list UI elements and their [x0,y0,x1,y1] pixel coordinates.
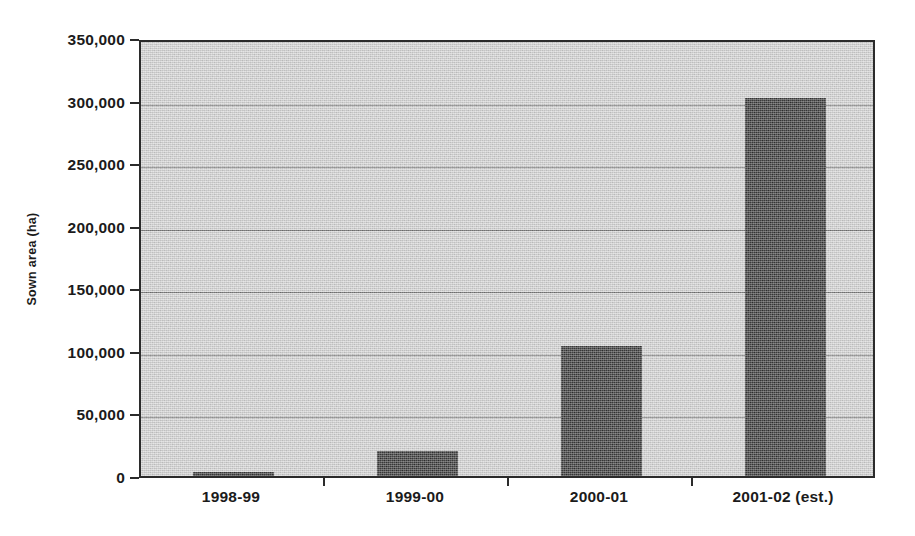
y-axis-tick-label: 300,000 [68,94,125,112]
x-axis-tick-label: 1999-00 [386,488,444,506]
y-axis-tick-mark [130,289,139,291]
y-axis-tick-label: 0 [116,469,125,487]
y-axis-tick-labels: 050,000100,000150,000200,000250,000300,0… [0,0,125,536]
bar [193,472,274,476]
y-axis-tick-mark [130,39,139,41]
y-axis-tick-label: 150,000 [68,281,125,299]
x-axis-tick-mark [323,478,325,486]
plot-area [139,40,875,478]
x-axis-tick-label: 2001-02 (est.) [732,488,833,506]
x-axis-tick-label: 1998-99 [202,488,260,506]
y-axis-tick-label: 250,000 [68,156,125,174]
y-axis-tick-label: 200,000 [68,219,125,237]
y-axis-tick-mark [130,352,139,354]
x-axis-tick-mark [691,478,693,486]
x-axis-tick-mark [507,478,509,486]
y-axis-tick-mark [130,102,139,104]
y-axis-tick-mark [130,414,139,416]
y-axis-tick-label: 50,000 [76,406,125,424]
bar-chart: 050,000100,000150,000200,000250,000300,0… [0,0,915,536]
bar [745,98,826,476]
y-axis-tick-mark [130,227,139,229]
y-axis-tick-mark [130,477,139,479]
bar [377,451,458,476]
y-axis-title: Sown area (ha) [25,212,39,305]
bar [561,346,642,476]
y-axis-tick-mark [130,164,139,166]
x-axis-tick-label: 2000-01 [570,488,628,506]
y-axis-tick-label: 350,000 [68,31,125,49]
y-axis-tick-label: 100,000 [68,344,125,362]
